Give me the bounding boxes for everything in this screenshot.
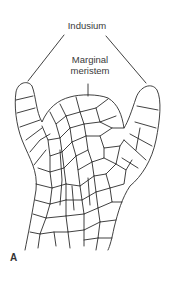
marginal-meristem-label: Marginal meristem [64, 54, 116, 76]
left-indusium-cells [16, 96, 50, 165]
meristem-cells [30, 97, 132, 250]
marginal-meristem-label-line1: Marginal [64, 54, 116, 65]
marginal-meristem-label-line2: meristem [64, 65, 116, 76]
cell-tissue-drawing [0, 0, 169, 285]
botanical-diagram: Indusium Marginal meristem A [0, 0, 169, 285]
tissue-outline [15, 83, 160, 250]
right-indusium-cells [122, 106, 158, 168]
indusium-label: Indusium [62, 20, 112, 31]
panel-label: A [10, 252, 17, 263]
